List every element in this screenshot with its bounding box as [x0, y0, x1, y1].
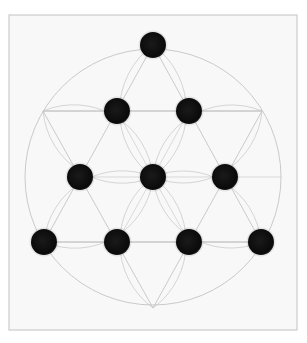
- tetractys-dot-row-4: [176, 229, 202, 255]
- tetractys-dot-row-3: [140, 164, 166, 190]
- tetractys-dot-row-2: [176, 98, 202, 124]
- tetractys-dot-row-3: [212, 164, 238, 190]
- tetractys-dot-row-2: [104, 98, 130, 124]
- tetractys-dot-row-4: [248, 229, 274, 255]
- tetractys-drawing: [0, 0, 307, 343]
- tetractys-dot-row-3: [67, 164, 93, 190]
- tetractys-dot-row-1: [140, 32, 166, 58]
- tetractys-dot-row-4: [31, 229, 57, 255]
- tetractys-dot-row-4: [104, 229, 130, 255]
